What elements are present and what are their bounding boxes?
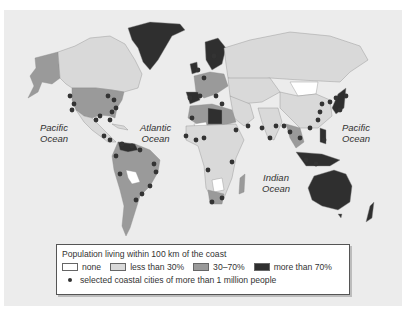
- swatch-less-than-30: [110, 263, 126, 271]
- swatch-none: [62, 263, 78, 271]
- legend-title: Population living within 100 km of the c…: [62, 248, 344, 260]
- legend-item-less-than-30: less than 30%: [110, 262, 184, 272]
- tasmania: [338, 214, 342, 218]
- china: [280, 92, 332, 128]
- swatch-30-70: [193, 263, 209, 271]
- city-dot-icon: [68, 278, 72, 282]
- india: [258, 108, 282, 140]
- alaska: [28, 52, 60, 98]
- madagascar: [239, 174, 245, 194]
- ocean-label-atlantic: Atlantic Ocean: [140, 122, 171, 144]
- legend-categories: none less than 30% 30–70% more than 70%: [62, 260, 344, 273]
- legend-item-none: none: [62, 262, 101, 272]
- south-america: [112, 142, 160, 236]
- map-legend: Population living within 100 km of the c…: [56, 244, 350, 295]
- swatch-more-than-70: [254, 263, 270, 271]
- libya: [208, 108, 222, 124]
- russia: [224, 32, 368, 82]
- scandinavia: [205, 38, 226, 70]
- canada: [58, 36, 142, 92]
- legend-item-30-70: 30–70%: [193, 262, 245, 272]
- australia: [308, 170, 352, 210]
- new-zealand: [366, 202, 374, 222]
- ocean-label-pacific-west: Pacific Ocean: [40, 122, 68, 144]
- caribbean: [112, 124, 128, 130]
- ocean-label-indian: Indian Ocean: [262, 172, 290, 194]
- legend-cities-row: selected coastal cities of more than 1 m…: [62, 273, 344, 286]
- southern-africa-white: [212, 178, 224, 192]
- ocean-label-pacific-east: Pacific Ocean: [342, 122, 370, 144]
- mongolia: [290, 82, 318, 96]
- legend-item-more-than-70: more than 70%: [254, 262, 332, 272]
